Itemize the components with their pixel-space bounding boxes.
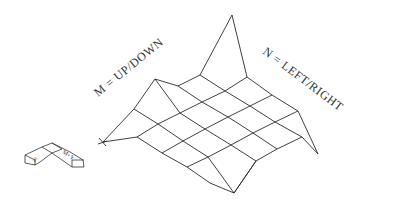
axis-icon-x-glyph: X bbox=[31, 156, 39, 164]
mesh-line-m bbox=[162, 95, 272, 153]
mesh-line-n bbox=[103, 137, 234, 193]
mesh-line-m bbox=[155, 75, 200, 86]
mesh-line-m bbox=[137, 77, 247, 137]
axis-orientation-icon: X M+Y bbox=[25, 143, 84, 167]
mesh-line-m bbox=[187, 111, 298, 167]
mesh-line-m bbox=[234, 137, 318, 193]
n-axis-label: N = LEFT/RIGHT bbox=[260, 44, 346, 114]
mesh-line-n bbox=[155, 79, 256, 193]
wireframe-mesh bbox=[103, 15, 318, 193]
m-axis-label: M = UP/DOWN bbox=[91, 35, 166, 99]
diagram-canvas: M = UP/DOWN N = LEFT/RIGHT X M+Y bbox=[0, 0, 411, 207]
